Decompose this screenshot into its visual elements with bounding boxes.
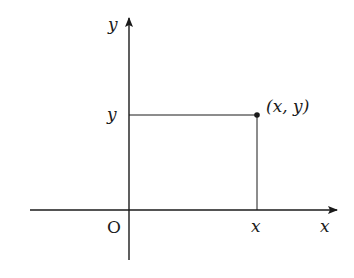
y-tick-label: y: [106, 104, 117, 124]
coordinate-diagram: y y O x x (x, y): [0, 0, 354, 278]
point-marker: [254, 112, 260, 118]
y-axis-label: y: [107, 14, 118, 34]
point-label: (x, y): [266, 96, 309, 116]
origin-label: O: [107, 217, 121, 237]
x-axis-label: x: [320, 216, 330, 236]
x-tick-label: x: [251, 216, 261, 236]
